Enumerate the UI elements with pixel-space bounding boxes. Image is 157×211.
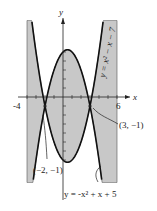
point-label-neg2-neg1: (−2, −1) <box>33 165 63 175</box>
intersection-point-left <box>43 104 46 107</box>
x-axis-arrow-icon <box>125 95 130 99</box>
point-label-3-neg1: (3, −1) <box>119 120 144 130</box>
curve-label-lower-parabola: y = -x² + x + 5 <box>64 189 117 199</box>
tick-label-6: 6 <box>116 101 121 111</box>
leader-line-left <box>43 115 47 159</box>
x-axis-label: x <box>132 92 137 102</box>
y-axis-arrow-icon <box>61 18 65 24</box>
y-axis-label: y <box>58 7 63 17</box>
intersection-point-right <box>88 104 91 107</box>
tick-label-neg4: -4 <box>13 101 21 111</box>
graph: y x -4 6 y = x² − x − 7 (3, −1) (−2, −1)… <box>0 0 157 211</box>
